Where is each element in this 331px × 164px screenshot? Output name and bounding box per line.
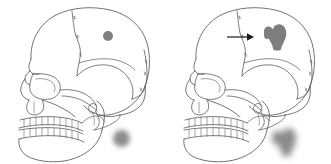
right-panel bbox=[165, 0, 331, 164]
skull-figure bbox=[0, 0, 331, 164]
lateral-skull-outline-left bbox=[0, 0, 166, 164]
lateral-skull-outline-right bbox=[165, 0, 331, 164]
left-panel bbox=[0, 0, 166, 164]
